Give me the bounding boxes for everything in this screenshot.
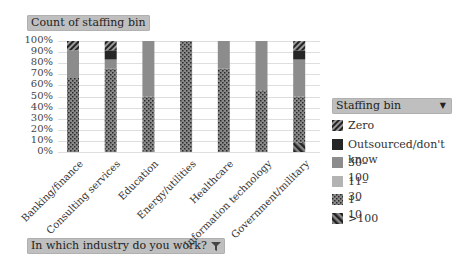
bar-segment[interactable] bbox=[256, 90, 268, 152]
bar-segment[interactable] bbox=[142, 97, 154, 153]
bar-segment[interactable] bbox=[256, 41, 268, 90]
bar-segment[interactable] bbox=[218, 41, 230, 69]
bar-segment[interactable] bbox=[67, 50, 79, 78]
bar-segment[interactable] bbox=[293, 97, 305, 143]
bar-segment[interactable] bbox=[293, 50, 305, 59]
bar-segment[interactable] bbox=[180, 41, 192, 152]
bar-segment[interactable] bbox=[293, 60, 305, 97]
bar-segment[interactable] bbox=[105, 41, 117, 50]
bar-segment[interactable] bbox=[218, 69, 230, 152]
bar-segment[interactable] bbox=[142, 41, 154, 97]
bars bbox=[0, 0, 468, 268]
bar-segment[interactable] bbox=[67, 78, 79, 152]
bar-segment[interactable] bbox=[293, 143, 305, 152]
bar-segment[interactable] bbox=[293, 41, 305, 50]
bar-segment[interactable] bbox=[105, 50, 117, 59]
bar-segment[interactable] bbox=[67, 41, 79, 50]
bar-segment[interactable] bbox=[105, 69, 117, 152]
bar-segment[interactable] bbox=[105, 60, 117, 69]
